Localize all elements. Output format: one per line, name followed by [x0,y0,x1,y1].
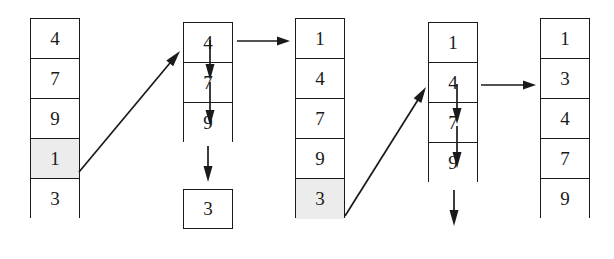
array-cell: 1 [541,19,589,59]
array-cell: 7 [541,139,589,179]
array-column-1: 47913 [30,18,80,218]
array-cell: 4 [184,23,232,63]
array-cell: 1 [31,139,79,179]
diagonal-arrow-2 [345,87,426,216]
array-cell: 9 [429,143,477,183]
array-cell: 9 [184,103,232,143]
array-cell: 7 [31,59,79,99]
array-cell: 3 [541,59,589,99]
array-cell: 7 [184,63,232,103]
array-cell: 4 [296,59,344,99]
array-cell: 7 [429,103,477,143]
array-cell: 4 [541,99,589,139]
array-cell: 3 [296,179,344,219]
array-column-4: 1479 [428,22,478,182]
eject-arrow-2 [450,190,459,226]
insertion-sort-diagram: 47913479314793147913479 [0,0,614,259]
array-column-2: 479 [183,22,233,142]
array-cell: 9 [541,179,589,219]
array-column-3: 14793 [295,18,345,218]
array-cell: 3 [31,179,79,219]
array-cell: 1 [429,23,477,63]
array-column-5: 13479 [540,18,590,218]
array-cell: 4 [429,63,477,103]
array-cell: 1 [296,19,344,59]
diagonal-arrow-1 [79,51,180,172]
eject-arrow-1 [204,146,213,182]
transition-arrow-1 [237,37,290,46]
array-cell: 4 [31,19,79,59]
transition-arrow-2 [481,81,536,90]
array-cell: 9 [31,99,79,139]
detached-element-cell: 3 [183,189,233,229]
array-cell: 9 [296,139,344,179]
array-cell: 7 [296,99,344,139]
